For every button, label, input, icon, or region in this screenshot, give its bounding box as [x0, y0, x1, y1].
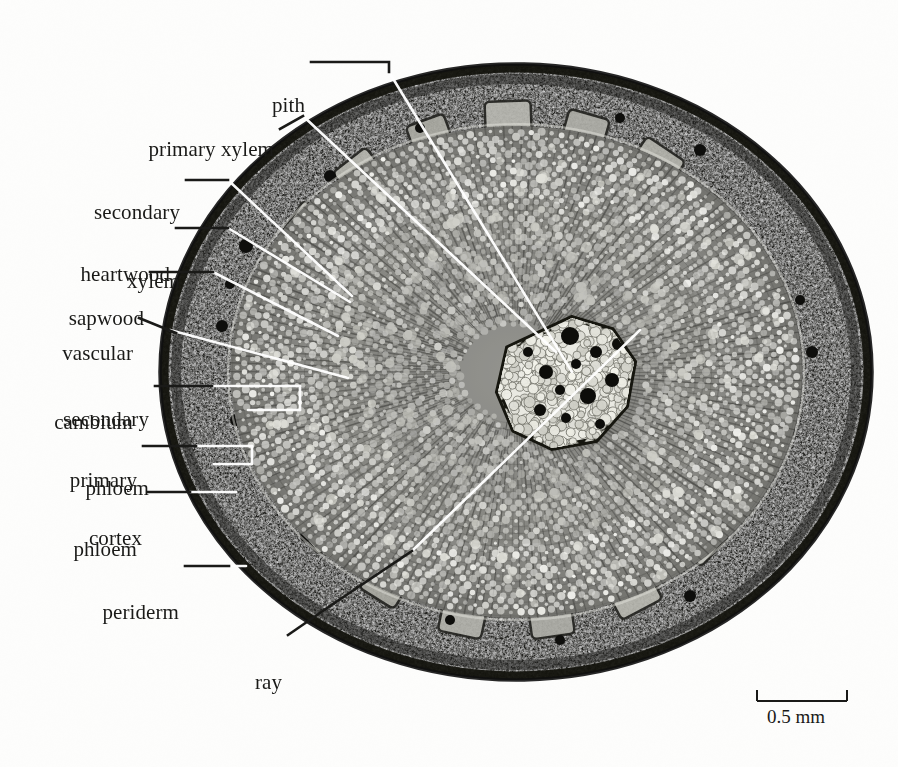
label-periderm-line-1: periderm [16, 601, 179, 624]
scale-bar-label: 0.5 mm [767, 706, 825, 728]
figure-woody-stem-cross-section: pith primary xylem secondary xylem heart… [0, 0, 898, 767]
label-ray: ray [186, 625, 282, 740]
label-cortex-line-1: cortex [16, 527, 142, 550]
label-periderm: periderm [16, 555, 179, 670]
label-ray-line-1: ray [186, 671, 282, 694]
